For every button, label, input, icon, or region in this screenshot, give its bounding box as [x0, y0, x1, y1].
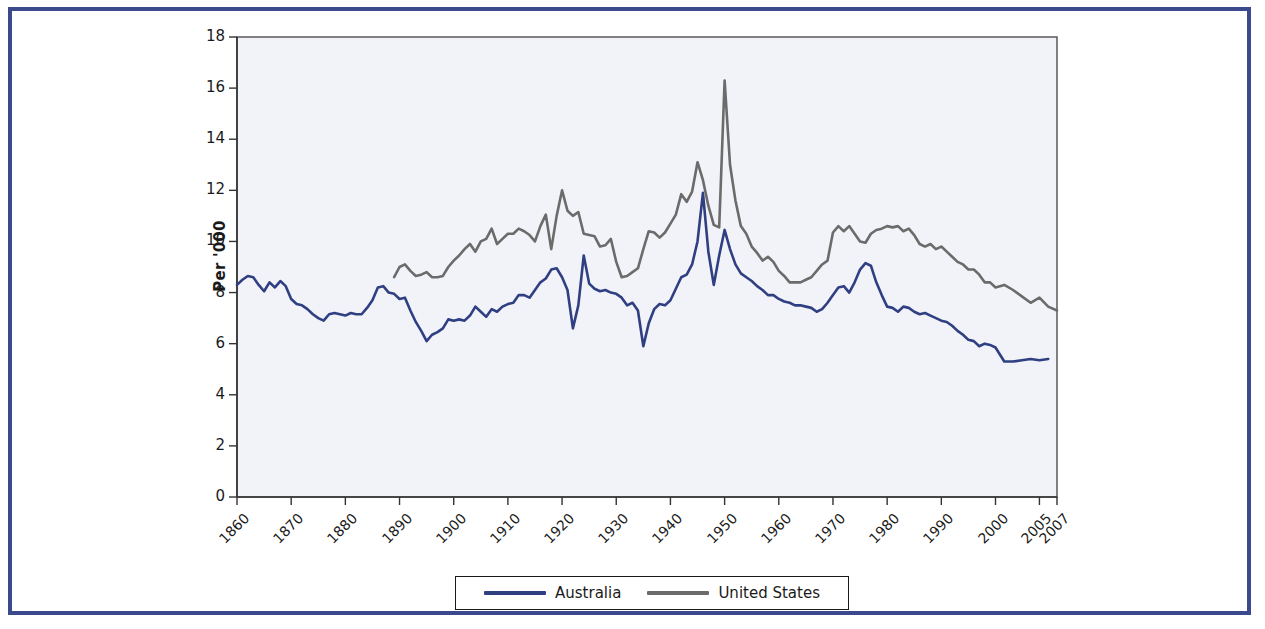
legend-item-united-states[interactable]: United States — [647, 584, 820, 602]
legend-color-swatch — [484, 591, 546, 595]
y-tick-label: 2 — [191, 436, 225, 454]
chart-stage: Per '000 024681012141618 186018701880189… — [12, 11, 1247, 611]
chart-legend: AustraliaUnited States — [455, 576, 849, 610]
legend-label: United States — [718, 584, 820, 602]
legend-item-australia[interactable]: Australia — [484, 584, 621, 602]
legend-label: Australia — [555, 584, 621, 602]
y-tick-label: 12 — [191, 180, 225, 198]
y-tick-label: 14 — [191, 129, 225, 147]
y-tick-label: 6 — [191, 334, 225, 352]
plot-area-background — [237, 37, 1057, 497]
y-tick-label: 8 — [191, 283, 225, 301]
y-tick-label: 0 — [191, 487, 225, 505]
figure-frame: Per '000 024681012141618 186018701880189… — [8, 7, 1251, 615]
y-tick-label: 4 — [191, 385, 225, 403]
y-tick-label: 10 — [191, 231, 225, 249]
legend-color-swatch — [647, 591, 709, 595]
y-tick-label: 16 — [191, 78, 225, 96]
y-tick-label: 18 — [191, 27, 225, 45]
